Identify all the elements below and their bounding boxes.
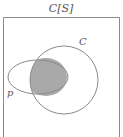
venn-diagram: C[S] C p (0, 0, 123, 137)
circle-c-label: C (79, 36, 87, 47)
diagram-title: C[S] (49, 2, 74, 15)
ellipse-p-label: p (7, 87, 14, 98)
